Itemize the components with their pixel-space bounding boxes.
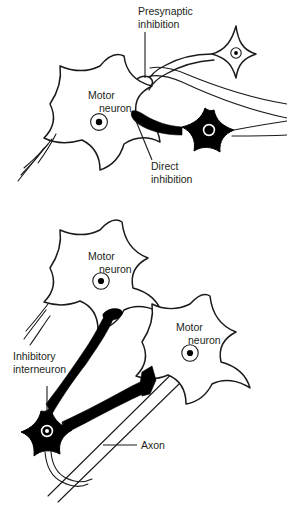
inhibitory-interneuron-label: Inhibitory interneuron [13, 350, 66, 375]
inhibitory-neuron-fiber-1 [234, 121, 287, 130]
interneuron-output-fiber-2 [51, 452, 92, 482]
motor-neuron-upper-dendrite-2 [24, 310, 46, 339]
neuron-inhibition-diagram: Presynaptic inhibition Motor neuron Dire… [0, 0, 287, 509]
direct-inhibition-label: Direct inhibition [151, 160, 193, 185]
motor-neuron-upper-nucleolus [98, 278, 104, 284]
motor-neuron-dendrite-3 [18, 148, 44, 181]
afferent-fiber-upper [150, 67, 287, 104]
inhibitory-neuron-nucleolus [207, 128, 211, 132]
inhibitory-neuron-fiber-2 [232, 135, 287, 136]
motor-neuron-upper-dendrite-1 [26, 304, 48, 331]
inhibitory-interneuron-nucleolus [45, 429, 49, 433]
motor-neuron-nucleolus [96, 119, 102, 125]
axon-label: Axon [141, 439, 165, 451]
presynaptic-inhibition-label: Presynaptic inhibition [138, 5, 196, 30]
presynaptic-neuron-nucleolus [234, 51, 238, 55]
presynaptic-axon-edge [149, 60, 214, 90]
motor-neuron-right-nucleolus [187, 350, 193, 356]
panel-presynaptic-and-direct-inhibition: Presynaptic inhibition Motor neuron Dire… [0, 0, 287, 200]
motor-neuron-upper-dendrite-3 [30, 316, 50, 345]
panel-inhibitory-interneuron: Motor neuron Motor neuron Inhibitory int… [0, 200, 287, 509]
interneuron-axon-to-right-motor-neuron [62, 380, 147, 434]
motor-neuron-dendrite-1 [24, 139, 52, 168]
afferent-fiber-lower [147, 76, 287, 118]
